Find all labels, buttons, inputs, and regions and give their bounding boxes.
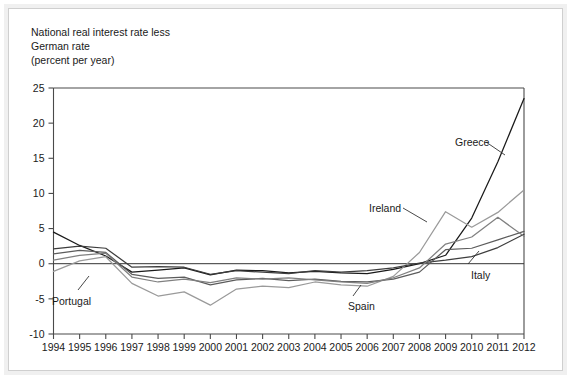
x-tick-label: 2008 — [408, 341, 432, 353]
series-label-greece: Greece — [455, 136, 490, 148]
y-tick-label: 10 — [33, 187, 45, 199]
x-tick-label: 2000 — [199, 341, 223, 353]
spain-leader-line — [353, 285, 361, 296]
series-label-portugal: Portugal — [52, 295, 91, 307]
x-tick-label: 2011 — [487, 341, 510, 353]
x-tick-label: 1998 — [146, 341, 170, 353]
axis-group — [54, 88, 525, 334]
x-tick-label: 1999 — [173, 341, 197, 353]
x-tick-label: 1995 — [68, 341, 92, 353]
data-series-spain — [54, 231, 525, 284]
y-tick-label: -5 — [35, 293, 44, 305]
x-tick-label: 1997 — [120, 341, 144, 353]
y-tick-label: 15 — [33, 152, 45, 164]
x-tick-group: 1994199519961997199819992000200120022003… — [42, 334, 536, 353]
x-tick-label: 1994 — [42, 341, 66, 353]
x-tick-label: 2003 — [277, 341, 301, 353]
data-series-greece — [54, 99, 525, 275]
y-tick-group: -10-50510152025 — [29, 82, 53, 340]
x-tick-label: 2004 — [303, 341, 327, 353]
y-tick-label: 0 — [39, 257, 45, 269]
series-label-spain: Spain — [348, 300, 375, 312]
x-tick-label: 2001 — [225, 341, 249, 353]
x-tick-label: 2005 — [329, 341, 353, 353]
figure-frame: National real interest rate less German … — [0, 0, 571, 379]
ireland-leader-line — [403, 208, 427, 222]
chart-plot: -10-50510152025 199419951996199719981999… — [0, 0, 571, 379]
y-tick-label: 5 — [39, 222, 45, 234]
series-group — [54, 99, 525, 306]
y-tick-label: 20 — [33, 117, 45, 129]
x-tick-label: 2002 — [251, 341, 275, 353]
data-series-ireland — [54, 190, 525, 305]
x-tick-label: 1996 — [94, 341, 118, 353]
x-tick-label: 2009 — [434, 341, 458, 353]
x-tick-label: 2012 — [512, 341, 536, 353]
x-tick-label: 2010 — [460, 341, 484, 353]
x-tick-label: 2006 — [355, 341, 379, 353]
portugal-leader-line — [78, 276, 89, 290]
annotation-group: Greece Ireland Italy Spain Portugal — [52, 136, 491, 312]
y-tick-label: -10 — [29, 328, 44, 340]
series-label-italy: Italy — [471, 269, 491, 281]
y-tick-label: 25 — [33, 82, 45, 94]
series-label-ireland: Ireland — [369, 202, 401, 214]
x-tick-label: 2007 — [382, 341, 406, 353]
